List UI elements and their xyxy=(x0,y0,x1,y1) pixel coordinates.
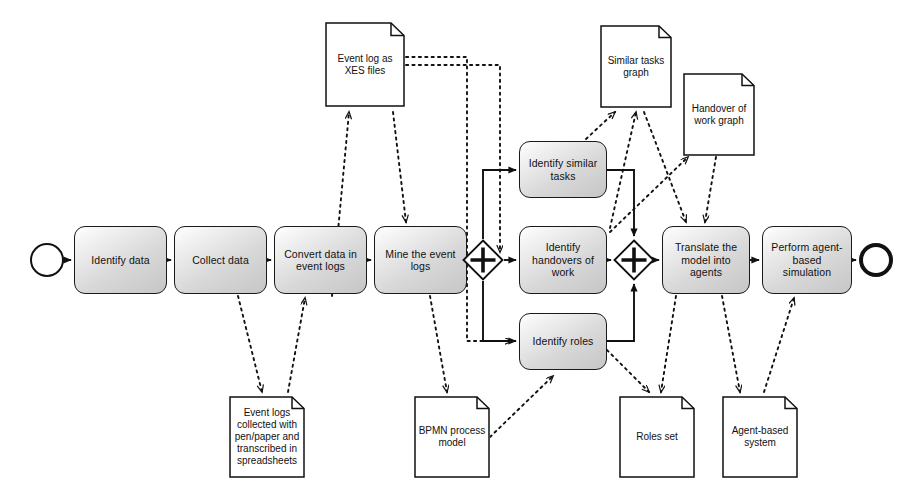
data-object-label: Roles set xyxy=(619,431,695,443)
task-convert-data-in-event-logs[interactable]: Convert data in event logs xyxy=(274,226,367,294)
task-label: Convert data in event logs xyxy=(284,248,357,273)
assoc-xes-doc-to-mine-logs xyxy=(393,112,406,222)
data-object-label: Handover of work graph xyxy=(683,103,755,127)
assoc-identify-similar-tasks-to-similar-tasks-graph xyxy=(586,112,615,139)
task-translate-the-model-into-agents[interactable]: Translate the model into agents xyxy=(662,226,750,294)
flow-split-to-identify-roles xyxy=(483,281,516,341)
assoc-translate-model-to-agent-based-system xyxy=(722,296,740,392)
bpmn-diagram-canvas: Identify data Collect data Convert data … xyxy=(0,0,919,497)
data-object-roles-set[interactable]: Roles set xyxy=(619,396,695,478)
assoc-similar-tasks-graph-to-translate-model xyxy=(644,112,686,222)
assoc-identify-roles-to-roles-set xyxy=(607,350,649,392)
flow-identify-roles-to-join xyxy=(607,284,634,341)
data-object-event-logs-collected-with-pen-paper[interactable]: Event logs collected with pen/paper and … xyxy=(229,396,305,478)
data-object-agent-based-system[interactable]: Agent-based system xyxy=(722,396,798,478)
task-collect-data[interactable]: Collect data xyxy=(174,226,267,294)
data-object-label: Event log as XES files xyxy=(325,53,405,77)
assoc-handover-graph-to-translate-model xyxy=(705,157,716,222)
data-object-bpmn-process-model[interactable]: BPMN process model xyxy=(414,396,490,478)
task-mine-the-event-logs[interactable]: Mine the event logs xyxy=(374,226,467,294)
task-perform-agent-based-simulation[interactable]: Perform agent- based simulation xyxy=(762,226,852,294)
parallel-gateway-split[interactable] xyxy=(462,239,504,281)
assoc-identify-handovers-to-handover-graph xyxy=(610,157,688,232)
end-event[interactable] xyxy=(859,243,893,277)
task-label: Perform agent- based simulation xyxy=(767,241,847,279)
task-label: Collect data xyxy=(192,254,249,267)
data-object-label: BPMN process model xyxy=(414,425,490,449)
assoc-mine-logs-to-bpmn-doc xyxy=(430,296,447,392)
start-event[interactable] xyxy=(30,243,64,277)
data-object-handover-of-work-graph[interactable]: Handover of work graph xyxy=(683,73,755,156)
task-identify-similar-tasks[interactable]: Identify similar tasks xyxy=(519,141,607,198)
data-object-label: Event logs collected with pen/paper and … xyxy=(229,407,305,467)
task-identify-data[interactable]: Identify data xyxy=(74,226,167,294)
task-identify-roles[interactable]: Identify roles xyxy=(519,313,607,370)
data-object-label: Agent-based system xyxy=(722,425,798,449)
assoc-agent-based-system-to-perform-simulation xyxy=(764,298,794,392)
assoc-collect-data-to-event-logs-doc xyxy=(238,296,262,392)
assoc-translate-model-to-roles-set xyxy=(661,296,676,392)
parallel-gateway-join[interactable] xyxy=(613,239,655,281)
task-label: Identify roles xyxy=(533,335,594,348)
task-identify-handovers-of-work[interactable]: Identify handovers of work xyxy=(519,226,607,294)
assoc-xes-doc-to-identify-roles xyxy=(406,57,512,341)
data-object-similar-tasks-graph[interactable]: Similar tasks graph xyxy=(600,25,672,108)
task-label: Translate the model into agents xyxy=(675,241,737,279)
data-object-label: Similar tasks graph xyxy=(600,55,672,79)
data-object-event-log-as-xes-files[interactable]: Event log as XES files xyxy=(325,22,405,107)
task-label: Identify data xyxy=(91,254,150,267)
assoc-event-logs-doc-to-convert-data xyxy=(288,298,305,392)
task-label: Mine the event logs xyxy=(385,248,455,273)
task-label: Identify handovers of work xyxy=(532,241,594,279)
assoc-xes-doc-to-identify-handovers xyxy=(406,65,500,252)
task-label: Identify similar tasks xyxy=(529,157,598,182)
assoc-bpmn-doc-to-identify-roles xyxy=(490,376,553,437)
